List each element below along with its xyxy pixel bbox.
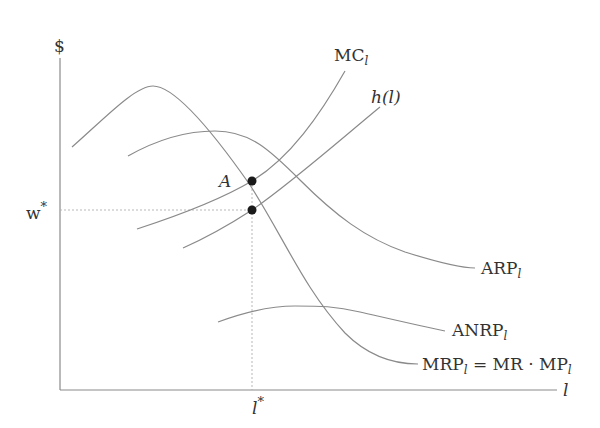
- h-label: h(l): [371, 87, 401, 107]
- mc-curve: [137, 71, 345, 229]
- h-curve: [183, 107, 380, 248]
- arp-curve: [128, 131, 475, 268]
- x-axis-label: l: [563, 380, 568, 400]
- point-a-dot: [248, 177, 257, 186]
- mc-label: MCl: [334, 45, 368, 68]
- labor-market-diagram: $ l w* l* A MCl h(l) ARPl ANRPl MRPl = M…: [0, 0, 600, 428]
- mrp-curve: [72, 86, 418, 364]
- anrp-label: ANRPl: [451, 320, 507, 343]
- arp-label: ARPl: [480, 258, 522, 281]
- l-star-label: l*: [252, 394, 264, 418]
- point-a-label: A: [217, 171, 231, 191]
- equilibrium-dot: [248, 206, 257, 215]
- w-star-label: w*: [26, 199, 48, 223]
- y-axis-label: $: [54, 36, 65, 56]
- mrp-label: MRPl = MR · MPl: [422, 354, 572, 377]
